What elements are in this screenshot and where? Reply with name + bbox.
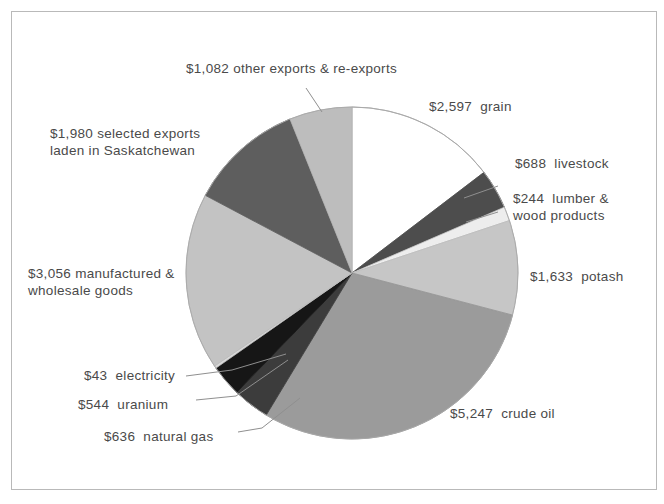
label-uranium: $544 uranium bbox=[78, 396, 168, 413]
leader-line-natural-gas bbox=[238, 428, 262, 432]
label-grain: $2,597 grain bbox=[429, 98, 512, 115]
leader-line-uranium bbox=[196, 396, 236, 400]
label-selected-exports: $1,980 selected exports laden in Saskatc… bbox=[50, 125, 200, 159]
pie-slice-group bbox=[186, 107, 518, 439]
label-livestock: $688 livestock bbox=[515, 155, 609, 172]
label-lumber: $244 lumber & wood products bbox=[513, 190, 609, 224]
label-other-exports: $1,082 other exports & re-exports bbox=[186, 60, 397, 77]
label-electricity: $43 electricity bbox=[84, 367, 175, 384]
label-potash: $1,633 potash bbox=[530, 268, 624, 285]
label-natural-gas: $636 natural gas bbox=[104, 428, 213, 445]
leader-line-other-exports bbox=[306, 88, 322, 112]
label-manufactured: $3,056 manufactured & wholesale goods bbox=[28, 265, 175, 299]
pie-chart-figure: $1,082 other exports & re-exports $2,597… bbox=[0, 0, 664, 504]
label-crude-oil: $5,247 crude oil bbox=[450, 405, 555, 422]
